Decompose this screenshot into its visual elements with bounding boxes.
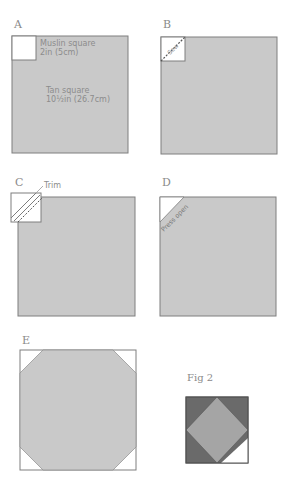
fig-2-block-diagram — [0, 0, 287, 486]
